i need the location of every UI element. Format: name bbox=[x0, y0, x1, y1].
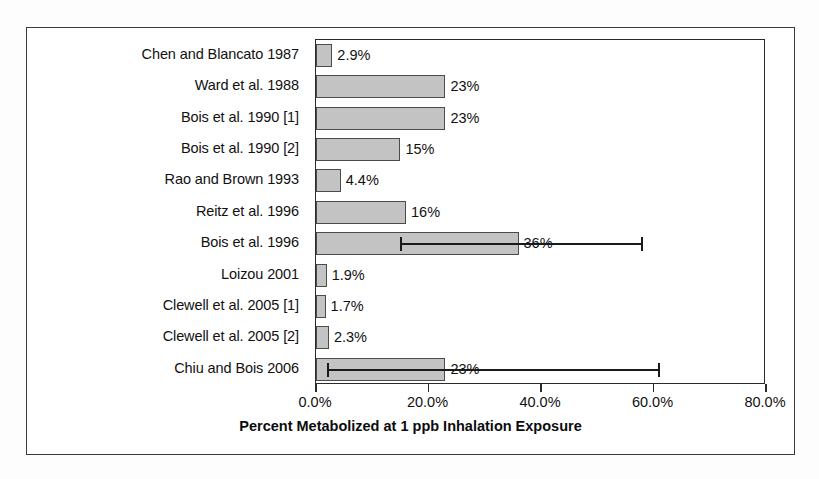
bar-value-label: 15% bbox=[405, 137, 434, 161]
x-axis-tick-label: 20.0% bbox=[407, 394, 448, 410]
bar bbox=[316, 75, 445, 98]
bar bbox=[316, 169, 341, 192]
bar bbox=[316, 44, 332, 67]
x-axis-title: Percent Metabolized at 1 ppb Inhalation … bbox=[27, 418, 794, 434]
category-label: Loizou 2001 bbox=[27, 259, 309, 290]
bar-row: 23% bbox=[316, 71, 764, 102]
bar bbox=[316, 326, 329, 349]
bar-value-label: 2.3% bbox=[334, 325, 367, 349]
bar bbox=[316, 107, 445, 130]
x-axis-ticks bbox=[315, 384, 765, 392]
bar-row: 2.9% bbox=[316, 40, 764, 71]
bar-value-label: 1.7% bbox=[331, 294, 364, 318]
category-label: Reitz et al. 1996 bbox=[27, 196, 309, 227]
category-label: Chen and Blancato 1987 bbox=[27, 39, 309, 70]
bar-row: 23% bbox=[316, 103, 764, 134]
category-label: Clewell et al. 2005 [1] bbox=[27, 290, 309, 321]
plot-area: 2.9%23%23%15%4.4%16%36%1.9%1.7%2.3%23% bbox=[315, 39, 765, 384]
x-axis-tick bbox=[428, 384, 430, 392]
bar-row: 15% bbox=[316, 134, 764, 165]
category-axis: Chen and Blancato 1987Ward et al. 1988Bo… bbox=[27, 39, 309, 384]
bar-row: 23% bbox=[316, 354, 764, 385]
x-axis-tick-label: 0.0% bbox=[298, 394, 331, 410]
category-label: Ward et al. 1988 bbox=[27, 70, 309, 101]
error-bar-line bbox=[327, 369, 659, 371]
category-label: Bois et al. 1990 [1] bbox=[27, 102, 309, 133]
x-axis-tick bbox=[540, 384, 542, 392]
category-label: Rao and Brown 1993 bbox=[27, 164, 309, 195]
bar-row: 1.7% bbox=[316, 291, 764, 322]
error-bar-cap-low bbox=[327, 363, 329, 377]
bar-row: 16% bbox=[316, 197, 764, 228]
bar-row: 2.3% bbox=[316, 322, 764, 353]
bar-value-label: 1.9% bbox=[332, 263, 365, 287]
bar bbox=[316, 138, 400, 161]
error-bar-cap-high bbox=[641, 237, 643, 251]
category-label: Bois et al. 1996 bbox=[27, 227, 309, 258]
x-axis-tick bbox=[315, 384, 317, 392]
x-axis-tick bbox=[653, 384, 655, 392]
bar-value-label: 23% bbox=[450, 74, 479, 98]
x-axis-tick-labels: 0.0%20.0%40.0%60.0%80.0% bbox=[315, 394, 765, 416]
x-axis-tick-label: 80.0% bbox=[744, 394, 785, 410]
error-bar-line bbox=[400, 243, 642, 245]
bar-value-label: 23% bbox=[450, 106, 479, 130]
bar-value-label: 16% bbox=[411, 200, 440, 224]
category-label: Clewell et al. 2005 [2] bbox=[27, 321, 309, 352]
bar-value-label: 2.9% bbox=[337, 43, 370, 67]
bar bbox=[316, 201, 406, 224]
x-axis-tick-label: 40.0% bbox=[519, 394, 560, 410]
bar-value-label: 4.4% bbox=[346, 168, 379, 192]
error-bar-cap-high bbox=[658, 363, 660, 377]
bar bbox=[316, 295, 326, 318]
bar-row: 4.4% bbox=[316, 165, 764, 196]
x-axis-tick bbox=[765, 384, 767, 392]
category-label: Bois et al. 1990 [2] bbox=[27, 133, 309, 164]
bar bbox=[316, 264, 327, 287]
error-bar-cap-low bbox=[400, 237, 402, 251]
bar-row: 1.9% bbox=[316, 260, 764, 291]
chart-figure-frame: Chen and Blancato 1987Ward et al. 1988Bo… bbox=[26, 27, 795, 455]
category-label: Chiu and Bois 2006 bbox=[27, 353, 309, 384]
x-axis-tick-label: 60.0% bbox=[632, 394, 673, 410]
bar-row: 36% bbox=[316, 228, 764, 259]
